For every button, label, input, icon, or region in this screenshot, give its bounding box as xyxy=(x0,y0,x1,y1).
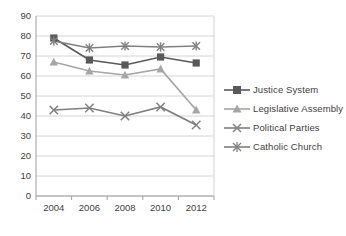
svg-text:20: 20 xyxy=(20,150,31,161)
x-axis-tick-labels: 20042006200820102012 xyxy=(43,202,207,213)
svg-text:2004: 2004 xyxy=(43,202,64,213)
svg-text:2006: 2006 xyxy=(79,202,100,213)
svg-text:60: 60 xyxy=(20,70,31,81)
svg-text:50: 50 xyxy=(20,90,31,101)
series-lines xyxy=(54,38,196,125)
legend-key-x-icon xyxy=(224,121,250,135)
legend-item-catholic-church: Catholic Church xyxy=(224,137,346,156)
svg-text:10: 10 xyxy=(20,170,31,181)
svg-text:90: 90 xyxy=(20,10,31,21)
legend-label-legislative-assembly: Legislative Assembly xyxy=(253,103,343,114)
svg-text:2008: 2008 xyxy=(114,202,135,213)
svg-text:2010: 2010 xyxy=(150,202,171,213)
svg-text:0: 0 xyxy=(26,190,31,201)
x-axis-tick-marks xyxy=(36,196,214,200)
chart-legend: Justice System Legislative Assembly Poli… xyxy=(224,80,346,156)
legend-item-political-parties: Political Parties xyxy=(224,118,346,137)
svg-text:70: 70 xyxy=(20,50,31,61)
svg-text:30: 30 xyxy=(20,130,31,141)
legend-label-justice-system: Justice System xyxy=(253,84,318,95)
svg-text:80: 80 xyxy=(20,30,31,41)
legend-key-triangle-icon xyxy=(224,102,250,116)
svg-text:2012: 2012 xyxy=(186,202,207,213)
legend-key-square-icon xyxy=(224,83,250,97)
chart-container: 0102030405060708090 20042006200820102012… xyxy=(0,0,346,236)
legend-label-catholic-church: Catholic Church xyxy=(253,141,322,152)
legend-item-legislative-assembly: Legislative Assembly xyxy=(224,99,346,118)
y-axis-tick-labels: 0102030405060708090 xyxy=(20,10,31,201)
svg-text:40: 40 xyxy=(20,110,31,121)
legend-label-political-parties: Political Parties xyxy=(253,122,320,133)
legend-item-justice-system: Justice System xyxy=(224,80,346,99)
legend-key-asterisk-icon xyxy=(224,140,250,154)
